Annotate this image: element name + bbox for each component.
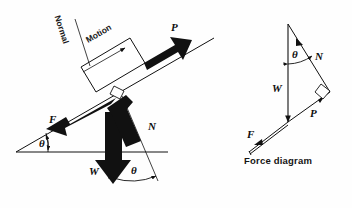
force-diagram-graphics bbox=[0, 0, 352, 208]
force-vector-N-arrowhead bbox=[296, 38, 303, 46]
force-vector-F bbox=[249, 122, 288, 155]
fd-label-normal-force-N: N bbox=[315, 50, 323, 62]
right-angle-marker-force-diagram bbox=[315, 84, 330, 99]
fd-label-angle: θ bbox=[292, 48, 298, 60]
force-diagram-caption: Force diagram bbox=[244, 155, 312, 166]
physics-force-diagram-figure: Normal Motion P F N W θ θ bbox=[0, 0, 352, 208]
fd-label-applied-force-P: P bbox=[310, 107, 317, 119]
fd-label-friction-F: F bbox=[247, 128, 254, 140]
fd-label-weight-W: W bbox=[272, 82, 282, 94]
